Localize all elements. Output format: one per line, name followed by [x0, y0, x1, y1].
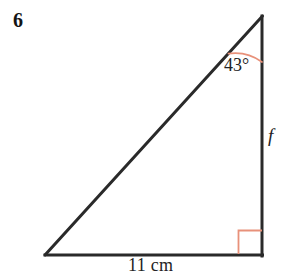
geometry-figure: 6 43° f 11 cm — [0, 0, 288, 276]
right-angle-marker — [239, 231, 263, 255]
angle-label-43-degrees: 43° — [224, 56, 249, 74]
side-label-f: f — [268, 126, 273, 145]
triangle-diagram-svg — [0, 0, 288, 276]
question-number: 6 — [13, 10, 23, 30]
triangle-hypotenuse-line — [45, 16, 263, 255]
base-length-label: 11 cm — [128, 256, 173, 274]
